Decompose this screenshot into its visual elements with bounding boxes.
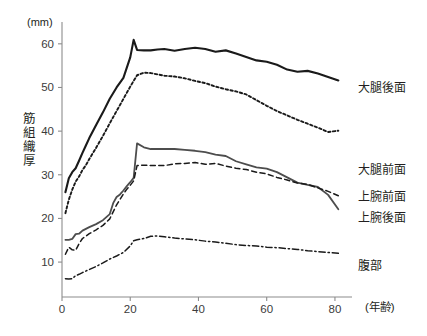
x-tick-label: 20 <box>124 303 137 315</box>
x-axis-title: (年齢) <box>365 300 395 313</box>
legend-label-腹部: 腹部 <box>358 258 382 273</box>
series-line-腹部 <box>65 236 338 279</box>
y-tick-group: 102030405060 <box>41 38 62 268</box>
x-tick-label: 40 <box>192 303 205 315</box>
legend-label-上腕後面: 上腕後面 <box>358 210 406 225</box>
series-group <box>65 40 338 279</box>
plot-area: 102030405060 020406080 (mm) (年齢) 大腿後面大腿前… <box>0 0 427 336</box>
y-tick-label: 50 <box>41 81 54 93</box>
y-tick-label: 40 <box>41 125 54 137</box>
y-tick-label: 10 <box>41 256 54 268</box>
y-tick-label: 60 <box>41 38 54 50</box>
series-line-大腿後面 <box>65 40 338 192</box>
y-tick-label: 20 <box>41 212 54 224</box>
series-line-上腕後面 <box>65 143 338 239</box>
x-tick-label: 60 <box>260 303 273 315</box>
x-tick-label: 80 <box>329 303 342 315</box>
x-tick-label: 0 <box>59 303 65 315</box>
legend-group: 大腿後面大腿前面上腕後面上腕前面腹部 <box>358 81 406 273</box>
legend-label-大腿後面: 大腿後面 <box>358 81 406 95</box>
axes-group <box>62 22 352 297</box>
y-unit-label: (mm) <box>27 16 53 28</box>
legend-label-上腕前面: 上腕前面 <box>358 189 406 204</box>
x-tick-group: 020406080 <box>59 297 342 315</box>
legend-label-大腿前面: 大腿前面 <box>358 162 406 177</box>
series-line-大腿前面 <box>65 73 338 214</box>
muscle-thickness-chart: 筋組織厚 102030405060 020406080 (mm) (年齢) 大腿… <box>0 0 427 336</box>
y-tick-label: 30 <box>41 169 54 181</box>
